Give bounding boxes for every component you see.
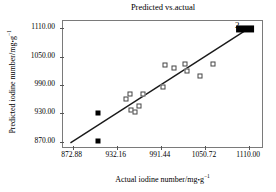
data-point-open-squares-3 [133, 110, 138, 115]
y-tick-label-4: 1110.00 [31, 23, 55, 31]
y-axis-title: Predicted iodine number/mg•g−1 [4, 12, 18, 152]
chart-figure: Predicted vs.actual 2 870.00930.00990.00… [0, 0, 276, 192]
unit-dot: • [197, 176, 199, 184]
x-tick-label-3: 1050.72 [192, 150, 216, 159]
y-tick-2 [60, 85, 64, 86]
y-tick-label-0: 870.00 [34, 137, 55, 145]
y-tick-4 [60, 28, 64, 29]
point-count-label-2: 2 [235, 20, 240, 29]
y-tick-0 [60, 142, 64, 143]
plot-area: 2 [62, 20, 263, 148]
x-tick-label-0: 872.88 [61, 150, 82, 159]
unit-exponent: −1 [6, 30, 12, 36]
y-tick-label-2: 990.00 [34, 80, 55, 88]
data-point-filled-squares-outliers-0 [95, 111, 100, 116]
data-point-open-squares-10 [184, 69, 189, 74]
y-tick-label-3: 1050.00 [31, 52, 55, 60]
data-point-filled-squares-outliers-1 [95, 138, 100, 143]
data-point-open-squares-12 [210, 62, 215, 67]
y-tick-3 [60, 57, 64, 58]
x-axis-title: Actual iodine number/mg•g−1 [62, 171, 263, 185]
data-point-open-squares-7 [162, 62, 167, 67]
unit-exponent: −1 [204, 173, 210, 179]
plot-inner: 2 [63, 21, 262, 147]
x-tick-label-4: 1110.00 [236, 150, 260, 159]
unit-dot: • [9, 40, 17, 42]
x-tick-labels: 872.88932.16991.441050.721110.00 [62, 150, 263, 162]
x-tick-label-1: 932.16 [105, 150, 126, 159]
y-tick-label-1: 930.00 [34, 108, 55, 116]
y-tick-1 [60, 113, 64, 114]
data-point-open-squares-6 [160, 84, 165, 89]
data-point-open-squares-11 [197, 73, 202, 78]
data-point-open-squares-8 [171, 65, 176, 70]
chart-title: Predicted vs.actual [62, 2, 264, 12]
data-point-open-squares-5 [140, 92, 145, 97]
data-point-open-squares-9 [183, 62, 188, 67]
data-point-open-squares-0 [124, 96, 129, 101]
data-point-open-squares-4 [136, 104, 141, 109]
x-tick-label-2: 991.44 [150, 150, 171, 159]
data-point-open-squares-1 [128, 92, 133, 97]
